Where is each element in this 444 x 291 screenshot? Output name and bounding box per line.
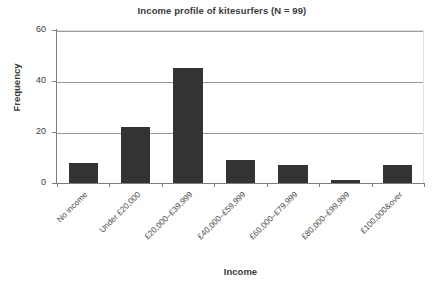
bar[interactable] — [69, 163, 98, 183]
x-axis-tick-mark — [57, 183, 58, 187]
y-axis-tick-mark — [52, 183, 56, 184]
plot-area — [57, 30, 424, 183]
bar[interactable] — [173, 68, 202, 183]
bar[interactable] — [121, 127, 150, 183]
bar-slot — [109, 31, 161, 183]
bar-slot — [267, 31, 319, 183]
y-axis-tick-label: 60 — [22, 24, 46, 34]
x-axis-title: Income — [57, 266, 424, 277]
bar-slot — [319, 31, 371, 183]
x-axis-tick-mark — [424, 183, 425, 187]
bar[interactable] — [278, 165, 307, 183]
x-axis-tick-mark — [162, 183, 163, 187]
x-axis-tick-mark — [319, 183, 320, 187]
x-axis-line — [56, 183, 425, 184]
y-axis-tick-mark — [52, 30, 56, 31]
bar[interactable] — [383, 165, 412, 183]
bar-slot — [214, 31, 266, 183]
bar[interactable] — [331, 180, 360, 183]
chart-container: Income profile of kitesurfers (N = 99) F… — [0, 0, 444, 291]
x-axis-tick-mark — [214, 183, 215, 187]
bar-slot — [372, 31, 424, 183]
y-axis-tick-mark — [52, 132, 56, 133]
bar-slot — [162, 31, 214, 183]
x-axis-tick-mark — [372, 183, 373, 187]
y-axis-tick-label: 0 — [22, 177, 46, 187]
y-axis-tick-mark — [52, 81, 56, 82]
y-axis-tick-label: 40 — [22, 75, 46, 85]
x-axis-tick-mark — [109, 183, 110, 187]
chart-title: Income profile of kitesurfers (N = 99) — [0, 5, 444, 16]
x-axis-tick-mark — [267, 183, 268, 187]
bar-slot — [57, 31, 109, 183]
bar[interactable] — [226, 160, 255, 183]
y-axis-title: Frequency — [11, 38, 22, 138]
y-axis-tick-label: 20 — [22, 126, 46, 136]
bar-series — [57, 31, 423, 183]
